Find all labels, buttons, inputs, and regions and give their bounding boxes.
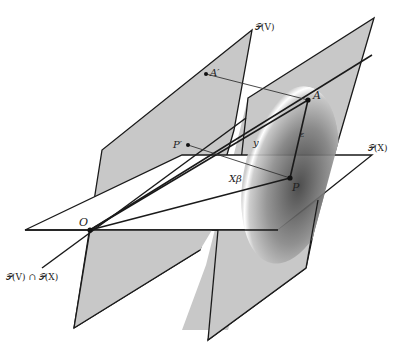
label-X-beta: Xβ (228, 173, 242, 184)
projective-planes-diagram: 𝒫(V) 𝒫(X) 𝒫(V) ∩ 𝒫(X) A′ A P′ P O y Xβ ε (0, 0, 408, 352)
label-epsilon: ε (300, 130, 304, 139)
label-plane-PX: 𝒫(X) (368, 143, 387, 153)
point-A-prime (204, 72, 208, 76)
point-P-prime (186, 143, 190, 147)
label-y: y (252, 137, 259, 148)
label-O: O (79, 216, 88, 229)
diagram-canvas: 𝒫(V) 𝒫(X) 𝒫(V) ∩ 𝒫(X) A′ A P′ P O y Xβ ε (0, 0, 408, 352)
label-A-prime: A′ (209, 67, 220, 78)
label-plane-PV: 𝒫(V) (255, 22, 275, 32)
label-P: P (291, 181, 300, 194)
label-intersection: 𝒫(V) ∩ 𝒫(X) (6, 272, 58, 282)
label-A: A (312, 89, 321, 102)
point-A (305, 97, 310, 102)
point-O (87, 227, 92, 232)
label-P-prime: P′ (172, 139, 183, 150)
point-P (287, 175, 292, 180)
